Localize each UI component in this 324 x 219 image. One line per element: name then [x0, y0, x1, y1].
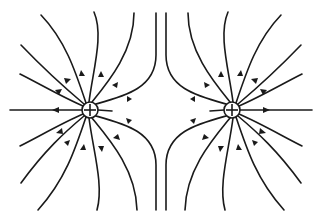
- right-positive-charge: [224, 102, 240, 118]
- left-positive-charge: [82, 102, 98, 118]
- field-line-diagram: Electric field lines of two equal positi…: [0, 0, 324, 219]
